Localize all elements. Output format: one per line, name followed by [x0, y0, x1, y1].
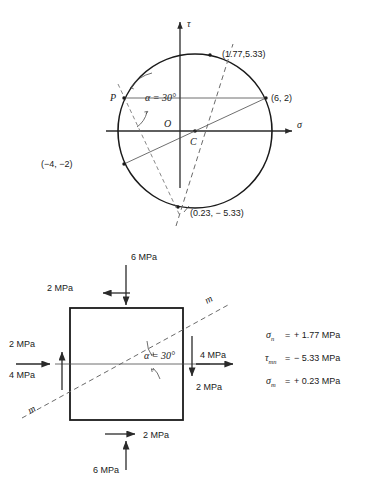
element-angle-arc-lower-tip [151, 369, 154, 372]
top-normal-label: 6 MPa [131, 252, 157, 262]
element-angle-label: α = 30° [144, 350, 175, 361]
point-p-label: P [109, 92, 116, 103]
inclined-plane-line [22, 305, 228, 418]
angle-arc-lower-tip [144, 111, 147, 114]
result-symbol-sigma-m: σm [266, 375, 276, 388]
point-minus4-minus2-marker [122, 162, 125, 165]
pole-ray-dashed-line [118, 84, 180, 216]
right-normal-label: 4 MPa [200, 350, 226, 360]
result-value-sigma-m: + 0.23 MPa [294, 376, 340, 386]
left-normal-label: 4 MPa [9, 370, 35, 380]
mohr-circle-group: τ σ C O P α = 30° [41, 18, 303, 226]
center-label: C [190, 136, 197, 147]
angle-arc-lower [137, 112, 147, 127]
point-label-minus4-minus2: (−4, −2) [41, 159, 73, 169]
mohr-angle-label: α = 30° [145, 92, 176, 103]
result-equals-3: = [285, 376, 290, 386]
point-label-0-23-minus5-33: (0.23, − 5.33) [190, 208, 244, 218]
result-symbol-tau-mn: τmn [265, 352, 277, 365]
origin-label: O [164, 118, 171, 129]
plane-label-upper: m [203, 293, 215, 306]
result-symbol-sigma-n: σn [266, 329, 274, 342]
tau-axis-label: τ [187, 18, 191, 29]
top-shear-label: 2 MPa [47, 283, 73, 293]
right-shear-label: 2 MPa [196, 382, 222, 392]
point-6-2-marker [264, 96, 267, 99]
point-label-6-2: (6, 2) [271, 93, 292, 103]
point-0-23-minus5-33-marker [176, 205, 179, 208]
bottom-shear-label: 2 MPa [143, 430, 169, 440]
results-group: σn = + 1.77 MPa τmn = − 5.33 MPa σm = + … [265, 329, 340, 388]
point-label-1-77-5-33: (1.77,5.33) [222, 49, 266, 59]
bottom-normal-label: 6 MPa [93, 465, 119, 475]
result-value-tau-mn: − 5.33 MPa [294, 353, 340, 363]
mohr-circle-figure: τ σ C O P α = 30° [0, 0, 377, 491]
plane-label-lower: m [26, 403, 38, 416]
point-1-77-5-33-marker [208, 53, 211, 56]
left-shear-label: 2 MPa [9, 339, 35, 349]
result-equals-1: = [285, 330, 290, 340]
sigma-axis-label: σ [297, 119, 303, 130]
point-p-marker [122, 96, 125, 99]
transformed-plane-dashed-line [176, 44, 233, 226]
result-equals-2: = [285, 353, 290, 363]
stress-element-group: m m α = 30° 6 MPa 2 MPa 2 MPa 4 MPa 4 MP… [9, 252, 233, 475]
result-value-sigma-n: + 1.77 MPa [294, 330, 340, 340]
